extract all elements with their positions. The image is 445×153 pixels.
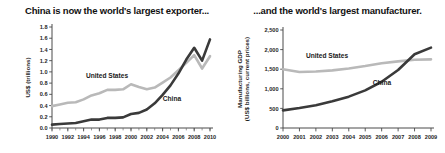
x-axis-tick-label: 2000 [277, 134, 289, 140]
x-axis-tick-label: 2000 [125, 134, 137, 140]
y-axis-tick-label: 1.2 [40, 58, 48, 64]
x-axis-tick-label: 2004 [343, 134, 356, 140]
exporter-chart-svg: US$ (trillions)0.00.20.40.60.81.01.21.41… [0, 0, 222, 153]
y-axis-tick-label: 1.4 [40, 47, 49, 53]
y-axis-tick-label: 0.0 [40, 125, 48, 131]
two-panel-line-chart-figure: China is now the world's largest exporte… [0, 0, 445, 153]
x-axis-tick-label: 2002 [310, 134, 322, 140]
y-axis-tick-label: 1.6 [40, 35, 48, 41]
x-axis-tick-label: 2009 [425, 134, 437, 140]
series-line-united-states [52, 55, 210, 106]
y-axis-tick-label: 0.2 [40, 114, 48, 120]
chart-panel-exporter: China is now the world's largest exporte… [0, 0, 222, 153]
x-axis-tick-label: 2003 [326, 134, 338, 140]
x-axis-tick-label: 2008 [408, 134, 420, 140]
series-line-china [52, 39, 210, 124]
x-axis-tick-label: 1992 [62, 134, 74, 140]
x-axis-tick-label: 2004 [156, 134, 169, 140]
y-axis-tick-label: 500 [269, 106, 278, 112]
x-axis-tick-label: 1998 [109, 134, 121, 140]
y-axis-tick-label: 1.8 [40, 24, 48, 30]
y-axis-title: Manufacturing GDP [236, 50, 243, 108]
x-axis-tick-label: 2006 [375, 134, 387, 140]
y-axis-tick-label: 1,000 [265, 86, 279, 92]
y-axis-tick-label: 0.6 [40, 91, 48, 97]
x-axis-tick-label: 1994 [77, 134, 90, 140]
series-annotation-china: China [373, 79, 392, 86]
series-annotation-united-states: United States [86, 72, 128, 79]
series-annotation-united-states: United States [306, 52, 348, 59]
x-axis-tick-label: 2001 [293, 134, 305, 140]
y-axis-tick-label: 0 [275, 125, 278, 131]
x-axis-tick-label: 1996 [93, 134, 105, 140]
x-axis-tick-label: 2010 [204, 134, 216, 140]
chart-panel-manufacturer: ...and the world's largest manufacturer.… [222, 0, 445, 153]
chart-axes [283, 27, 434, 128]
x-axis-tick-label: 2002 [141, 134, 153, 140]
manufacturer-chart-svg: Manufacturing GDP(US$ billions, current … [222, 0, 445, 153]
chart-axes [52, 24, 213, 128]
y-axis-tick-label: 1,500 [265, 66, 279, 72]
x-axis-tick-label: 2005 [359, 134, 371, 140]
y-axis-tick-label: 0.4 [40, 103, 49, 109]
series-annotation-china: China [163, 95, 182, 102]
x-axis-tick-label: 1990 [46, 134, 58, 140]
x-axis-tick-label: 2006 [172, 134, 184, 140]
y-axis-title: (US$ billions, current prices) [243, 37, 250, 121]
x-axis-tick-label: 2008 [188, 134, 200, 140]
y-axis-tick-label: 1.0 [40, 69, 48, 75]
y-axis-tick-label: 2,500 [265, 27, 279, 33]
y-axis-title: US$ (trillions) [24, 57, 31, 97]
y-axis-tick-label: 2,000 [265, 47, 279, 53]
y-axis-tick-label: 0.8 [40, 80, 48, 86]
x-axis-tick-label: 2007 [392, 134, 404, 140]
